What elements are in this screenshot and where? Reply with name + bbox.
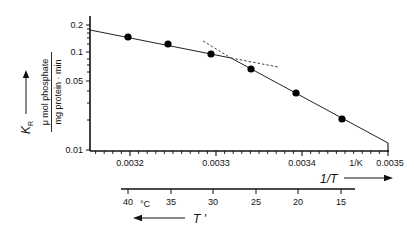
arrhenius-chart: 0.2 0.1 0.05 0.01: [0, 0, 414, 237]
temperature-axis-title: T ': [193, 212, 207, 226]
y-tick-label: 0.1: [70, 47, 83, 57]
y-tick-label: 0.05: [65, 76, 83, 86]
y-tick-label: 0.01: [65, 145, 83, 155]
y-unit-numerator: μ mol phosphate: [40, 59, 50, 126]
data-point: [338, 115, 345, 122]
x-tick-label: 0.0035: [376, 158, 404, 168]
data-point: [124, 33, 131, 40]
x-tick-label: 0.0033: [202, 158, 230, 168]
data-point: [164, 40, 171, 47]
data-point: [207, 50, 214, 57]
temperature-tick-label: 15: [336, 197, 346, 207]
temperature-unit-label: °C: [140, 199, 151, 209]
temperature-tick-label: 35: [166, 197, 176, 207]
temperature-tick-label: 40: [123, 197, 133, 207]
data-point: [292, 89, 299, 96]
data-point: [247, 65, 254, 72]
temperature-tick-label: 25: [251, 197, 261, 207]
x-axis-title: 1/T: [320, 172, 339, 186]
x-unit-label: 1/K: [349, 158, 363, 168]
y-tick-label: 0.2: [70, 20, 83, 30]
y-axis-title: KR: [19, 70, 34, 134]
x-tick-label: 0.0032: [116, 158, 144, 168]
temperature-tick-label: 20: [293, 197, 303, 207]
y-symbol: KR: [19, 121, 34, 134]
fit-line: [90, 30, 388, 143]
x-major-ticks: [130, 143, 388, 156]
y-arrow-head-icon: [23, 70, 29, 78]
data-points: [124, 33, 345, 122]
t-arrow-head-icon: [133, 215, 142, 221]
x-arrow-head-icon: [384, 175, 393, 181]
x-tick-label: 0.0034: [288, 158, 316, 168]
y-unit-fraction: μ mol phosphate mg protein · min: [40, 52, 63, 132]
y-unit-denominator: mg protein · min: [53, 59, 63, 124]
extrapolation-dashed-shallow: [231, 58, 278, 67]
temperature-tick-label: 30: [208, 197, 218, 207]
